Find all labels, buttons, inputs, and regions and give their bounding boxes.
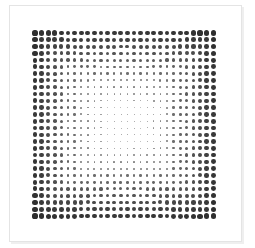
halftone-dot [127,161,129,163]
halftone-dot [165,52,169,56]
halftone-dot [80,72,83,75]
halftone-dot [179,133,182,136]
halftone-dot [80,161,82,163]
halftone-dot [106,59,109,62]
halftone-dot [211,146,216,151]
halftone-dot [132,187,135,190]
halftone-dot [140,107,141,108]
halftone-dot [204,105,208,109]
halftone-dot [140,121,141,122]
halftone-dot [119,52,123,56]
halftone-dot [87,72,89,74]
halftone-dot [204,133,208,137]
halftone-dot [192,153,196,157]
halftone-dot [60,174,63,177]
halftone-dot [100,127,101,128]
halftone-dot [172,187,175,190]
halftone-dot [159,194,163,198]
halftone-dot [66,194,70,198]
halftone-dot [152,181,155,184]
halftone-dot [204,126,208,130]
halftone-dot [114,93,115,94]
halftone-dot [80,93,82,95]
halftone-dot [159,168,161,170]
halftone-dot [73,51,77,55]
halftone-dot [105,38,109,42]
halftone-dot [99,45,103,49]
halftone-dot [153,134,154,135]
halftone-dot [185,37,190,42]
halftone-dot [100,66,103,69]
halftone-dot [120,174,122,176]
halftone-dot [53,85,57,89]
halftone-dot [60,99,63,102]
halftone-dot [138,38,142,42]
halftone-dot [94,93,95,94]
halftone-dot [204,139,208,143]
halftone-dot [120,93,121,94]
halftone-dot [60,106,63,109]
halftone-dot [53,79,57,83]
halftone-dot [80,79,82,81]
halftone-dot [39,71,43,75]
halftone-dot [132,201,136,205]
halftone-dot [172,72,175,75]
halftone-dot [94,127,95,128]
halftone-dot [126,181,129,184]
halftone-dot [127,154,128,155]
halftone-dot [113,174,115,176]
halftone-dot [191,194,195,198]
halftone-dot [211,64,216,69]
halftone-dot [140,79,142,81]
halftone-dot [87,147,89,149]
halftone-dot [204,51,209,56]
halftone-dot [100,114,101,115]
halftone-dot [92,45,96,49]
halftone-dot [211,153,216,158]
halftone-dot [185,126,188,129]
halftone-dot [134,107,135,108]
halftone-dot [86,181,89,184]
halftone-dot [39,112,43,116]
halftone-dot [120,168,122,170]
halftone-dot [94,148,95,149]
halftone-dot [153,72,155,74]
halftone-dot [160,134,162,136]
halftone-dot [185,120,188,123]
halftone-dot [185,72,188,75]
halftone-dot [67,113,70,116]
halftone-dot [33,71,38,76]
halftone-dot [185,207,190,212]
halftone-dot [165,207,169,211]
halftone-dot [159,161,161,163]
halftone-dot [73,181,76,184]
halftone-dot [93,65,96,68]
halftone-dot [153,107,154,108]
halftone-dot [60,126,63,129]
halftone-dot [211,166,216,171]
halftone-dot [60,72,63,75]
halftone-dot [112,201,116,205]
halftone-dot [166,181,169,184]
halftone-dot [92,31,97,36]
halftone-dot [46,72,50,76]
halftone-dot [158,31,163,36]
halftone-dot [73,154,75,156]
halftone-dot [87,100,89,102]
halftone-dot [105,31,110,36]
halftone-dot [67,167,70,170]
halftone-dot [139,72,141,74]
halftone-dot [67,120,70,123]
halftone-dot [166,93,168,95]
halftone-dot [198,78,202,82]
halftone-dot [211,213,216,218]
halftone-dot [132,59,135,62]
halftone-dot [198,126,202,130]
halftone-dot [79,200,83,204]
halftone-dot [33,119,38,124]
halftone-dot [179,140,182,143]
halftone-dot [33,112,38,117]
halftone-dot [46,51,50,55]
halftone-dot [53,58,57,62]
halftone-dot [73,113,75,115]
